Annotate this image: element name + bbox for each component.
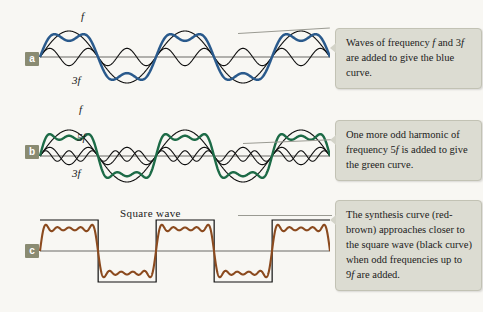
curve-label-b-fifth: 5f xyxy=(77,131,86,143)
callout-notch-icon xyxy=(330,215,336,225)
panel-b-plot xyxy=(0,98,330,198)
curve-label-b-fundamental: f xyxy=(79,103,82,115)
callout-c-text-5b: are xyxy=(354,269,369,280)
leader-line-c xyxy=(238,215,332,216)
square-wave-label: Square wave xyxy=(120,207,181,219)
panel-a-plot xyxy=(0,0,330,105)
callout-a-text-1b: and xyxy=(435,37,453,48)
callout-a-text-1: Waves of frequency xyxy=(346,37,432,48)
callout-a-text-2b: are added to give the xyxy=(346,52,433,63)
callout-notch-icon xyxy=(330,43,336,53)
callout-c: The synthesis curve (red-brown) approach… xyxy=(335,200,482,291)
callout-a: Waves of frequency f and 3f are added to… xyxy=(335,28,482,89)
callout-c-text-1: The synthesis curve xyxy=(346,209,429,220)
callout-b: One more odd harmonic of frequency 5f is… xyxy=(335,120,482,181)
curve-label-a-third: 3f xyxy=(72,74,81,86)
panel-tag-a: a xyxy=(25,52,39,66)
figure-fourier-synthesis: a b c f 3f f 5f 3f Square wave Waves of … xyxy=(0,0,483,312)
callout-b-text-2b: is added xyxy=(399,144,436,155)
callout-a-italic-3f: f xyxy=(461,37,464,48)
panel-a xyxy=(0,0,330,105)
curve-label-a-fundamental: f xyxy=(81,10,84,22)
callout-c-text-6: added. xyxy=(372,269,400,280)
panel-tag-c: c xyxy=(25,244,39,258)
callout-b-text-1: One more odd harmonic xyxy=(346,129,448,140)
curve-label-b-third: 3f xyxy=(72,167,81,179)
panel-tag-b: b xyxy=(25,145,39,159)
callout-notch-icon xyxy=(330,135,336,145)
panel-b xyxy=(0,98,330,198)
